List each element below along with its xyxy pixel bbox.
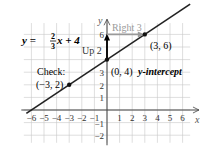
- x-tick-label: 1: [117, 113, 122, 123]
- y-tick-label: 1: [100, 93, 105, 103]
- y-tick-label: 2: [100, 81, 105, 91]
- x-tick-label: −5: [39, 113, 49, 123]
- data-point: [67, 83, 71, 87]
- check-label: Check:: [37, 66, 65, 77]
- x-tick-label: −4: [52, 113, 62, 123]
- x-tick-label: 4: [155, 113, 160, 123]
- x-tick-label: 5: [168, 113, 173, 123]
- marks: [26, 4, 190, 113]
- x-tick-label: 3: [143, 113, 148, 123]
- up-label: Up 2: [82, 45, 102, 56]
- y-axis-label: y: [97, 15, 103, 26]
- x-tick-label: 6: [180, 113, 185, 123]
- x-tick-label: −6: [27, 113, 37, 123]
- linear-graph: xy −6−5−4−3−2−11234566321−1−2 y = 2 3 x …: [0, 0, 222, 168]
- equation-fraction-den: 3: [51, 42, 55, 51]
- x-tick-label: −3: [64, 113, 74, 123]
- data-point: [105, 57, 109, 61]
- equation-label: y =: [20, 34, 36, 46]
- point-label-3-6: (3, 6): [150, 40, 172, 52]
- y-tick-label: −2: [94, 131, 104, 141]
- x-tick-label: −2: [77, 113, 87, 123]
- y-tick-label: 6: [100, 30, 105, 40]
- equation-rest: x + 4: [56, 34, 80, 46]
- equation-fraction-num: 2: [51, 32, 55, 41]
- x-tick-label: 2: [130, 113, 135, 123]
- data-point: [143, 32, 147, 36]
- y-tick-label: 3: [100, 68, 105, 78]
- y-intercept-label: y-intercept: [137, 66, 183, 77]
- point-label-neg3-2: (−3, 2): [36, 79, 63, 91]
- x-axis-label: x: [194, 114, 200, 125]
- point-label-0-4: (0, 4): [111, 66, 133, 78]
- right-label: Right 3: [112, 22, 142, 33]
- y-tick-label: −1: [94, 119, 104, 129]
